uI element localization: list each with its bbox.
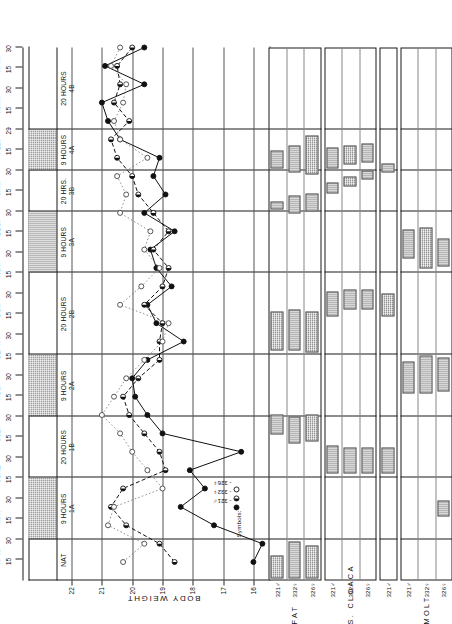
- bar-subject-label: 326♀: [363, 581, 370, 597]
- treatment-divider: [324, 128, 377, 129]
- measurement-bar: [361, 447, 374, 474]
- measurement-bar: [343, 176, 356, 185]
- treatment-divider: [324, 272, 377, 273]
- bar-subject-label: 326♀: [308, 581, 315, 597]
- bar-subject-label: 321♂: [404, 581, 411, 597]
- treatment-divider: [324, 415, 377, 416]
- bar-group-caption: S. CLOACA: [345, 564, 354, 624]
- treatment-divider: [400, 477, 452, 478]
- treatment-divider: [400, 415, 452, 416]
- treatment-divider: [268, 128, 321, 129]
- measurement-bar: [361, 170, 374, 179]
- treatment-divider: [379, 477, 397, 478]
- treatment-divider: [400, 538, 452, 539]
- measurement-bar: [381, 163, 394, 172]
- measurement-bar: [343, 447, 356, 474]
- measurement-bar: [326, 445, 339, 474]
- measurement-bar: [305, 311, 318, 352]
- measurement-bar: [270, 414, 283, 435]
- subject-divider: [303, 47, 304, 580]
- measurement-bar: [361, 143, 374, 161]
- treatment-divider: [324, 210, 377, 211]
- treatment-divider: [400, 169, 452, 170]
- measurement-bar: [402, 361, 415, 394]
- subject-divider: [341, 47, 342, 580]
- measurement-bar: [437, 357, 450, 392]
- measurement-bar: [326, 147, 339, 168]
- measurement-bar: [402, 229, 415, 258]
- treatment-divider: [324, 354, 377, 355]
- measurement-bar: [270, 555, 283, 578]
- measurement-bar: [437, 238, 450, 267]
- treatment-divider: [268, 354, 321, 355]
- subject-divider: [417, 47, 418, 580]
- measurement-bar: [288, 195, 301, 213]
- measurement-bar: [270, 201, 283, 209]
- treatment-divider: [268, 272, 321, 273]
- bar-subject-label: 326♀: [439, 581, 446, 597]
- treatment-divider: [379, 354, 397, 355]
- measurement-bar: [419, 227, 432, 268]
- treatment-divider: [400, 210, 452, 211]
- treatment-divider: [324, 538, 377, 539]
- measurement-bar: [288, 541, 301, 578]
- bar-subject-label: 332♀: [290, 581, 297, 597]
- measurement-bar: [305, 135, 318, 174]
- measurement-bar: [305, 545, 318, 578]
- measurement-bar: [419, 355, 432, 394]
- treatment-divider: [379, 210, 397, 211]
- measurement-bar: [381, 447, 394, 474]
- measurement-bar: [305, 414, 318, 441]
- treatment-divider: [400, 272, 452, 273]
- measurement-bar: [326, 291, 339, 316]
- measurement-bar: [288, 416, 301, 443]
- bar-subject-label: 321♂: [273, 581, 280, 597]
- treatment-divider: [268, 538, 321, 539]
- treatment-divider: [379, 272, 397, 273]
- measurement-bar: [270, 311, 283, 350]
- subject-divider: [435, 47, 436, 580]
- bar-subject-label: 321♂: [328, 581, 335, 597]
- measurement-bar: [305, 193, 318, 211]
- measurement-bar: [381, 293, 394, 316]
- measurement-bar: [270, 150, 283, 168]
- measurement-bar: [343, 289, 356, 310]
- measurement-bar: [361, 289, 374, 310]
- treatment-divider: [379, 415, 397, 416]
- subject-divider: [359, 47, 360, 580]
- treatment-divider: [379, 128, 397, 129]
- measurement-bar: [343, 145, 356, 163]
- treatment-divider: [324, 477, 377, 478]
- subject-divider: [286, 47, 287, 580]
- measurement-bar: [437, 500, 450, 516]
- bar-subject-label: 321♂: [384, 581, 391, 597]
- bar-group-caption: MOLT: [421, 595, 430, 624]
- treatment-divider: [400, 128, 452, 129]
- bar-group-caption: FAT: [289, 604, 298, 624]
- measurement-bar: [326, 182, 339, 192]
- treatment-divider: [268, 477, 321, 478]
- measurement-bar: [288, 309, 301, 350]
- measurement-bar: [288, 145, 301, 172]
- treatment-divider: [379, 538, 397, 539]
